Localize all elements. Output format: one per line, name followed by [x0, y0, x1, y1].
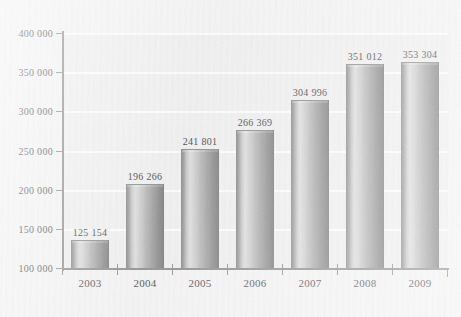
bar-value-2009: 353 304 — [390, 49, 450, 60]
x-tick-1 — [117, 264, 118, 275]
bar-2007 — [291, 100, 329, 268]
y-tick-label-300000: 300 000 — [0, 106, 53, 117]
bar-value-2003: 125 154 — [60, 227, 120, 238]
x-tick-3 — [227, 264, 228, 275]
y-tick-250000 — [56, 151, 63, 152]
gridline-300000 — [63, 111, 448, 113]
bar-2003 — [71, 240, 109, 268]
y-tick-label-150000: 150 000 — [0, 224, 53, 235]
bar-value-2005: 241 801 — [170, 136, 230, 147]
y-tick-300000 — [56, 111, 63, 112]
x-tick-4 — [282, 264, 283, 275]
x-tick-6 — [392, 264, 393, 275]
bar-2008 — [346, 64, 384, 268]
y-tick-350000 — [56, 72, 63, 73]
gridline-400000 — [63, 33, 448, 35]
x-label-2004: 2004 — [115, 277, 175, 289]
y-tick-label-200000: 200 000 — [0, 185, 53, 196]
bar-2006 — [236, 130, 274, 268]
gridline-350000 — [63, 72, 448, 74]
x-tick-0 — [62, 264, 63, 275]
y-tick-label-350000: 350 000 — [0, 67, 53, 78]
bar-value-2006: 266 369 — [225, 117, 285, 128]
y-tick-label-250000: 250 000 — [0, 146, 53, 157]
x-label-2003: 2003 — [60, 277, 120, 289]
y-tick-200000 — [56, 190, 63, 191]
bar-chart: 400 000 350 000 300 000 250 000 200 000 … — [0, 0, 461, 317]
x-tick-5 — [337, 264, 338, 275]
y-tick-400000 — [56, 33, 63, 34]
bar-value-2007: 304 996 — [280, 87, 340, 98]
x-label-2007: 2007 — [280, 277, 340, 289]
y-tick-label-400000: 400 000 — [0, 28, 53, 39]
x-label-2009: 2009 — [390, 277, 450, 289]
bar-2009 — [401, 62, 439, 268]
x-label-2005: 2005 — [170, 277, 230, 289]
x-axis-end-tick — [447, 268, 448, 277]
x-label-2008: 2008 — [335, 277, 395, 289]
x-axis-line — [62, 268, 449, 270]
x-tick-2 — [172, 264, 173, 275]
y-tick-label-100000: 100 000 — [0, 263, 53, 274]
x-label-2006: 2006 — [225, 277, 285, 289]
bar-2004 — [126, 184, 164, 268]
bar-value-2004: 196 266 — [115, 171, 175, 182]
bar-value-2008: 351 012 — [335, 51, 395, 62]
bar-2005 — [181, 149, 219, 268]
